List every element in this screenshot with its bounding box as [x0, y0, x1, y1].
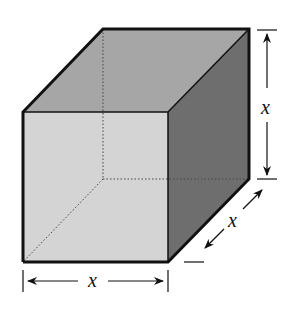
width-label: x [87, 269, 97, 291]
depth-label: x [227, 209, 237, 231]
cube-diagram: x x x [0, 0, 288, 315]
height-label: x [260, 96, 270, 118]
